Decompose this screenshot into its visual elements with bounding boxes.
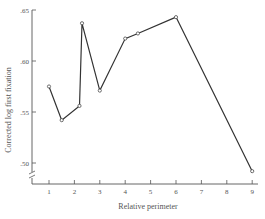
x-tick-label: 9: [250, 188, 254, 196]
y-tick-label: .60: [20, 58, 29, 66]
x-axis: 123456789: [32, 180, 258, 196]
x-tick-label: 3: [98, 188, 102, 196]
x-tick-label: 1: [47, 188, 51, 196]
data-point: [124, 37, 127, 40]
x-tick-label: 7: [200, 188, 204, 196]
axis-break-mark: [29, 175, 35, 178]
y-tick-label: .65: [20, 7, 29, 15]
data-point: [78, 104, 81, 107]
line-chart: .50.55.60.65 123456789 Relative perimete…: [0, 0, 265, 219]
chart-svg: .50.55.60.65 123456789 Relative perimete…: [0, 0, 265, 219]
x-tick-label: 2: [73, 188, 77, 196]
data-point: [136, 32, 139, 35]
data-point: [80, 22, 83, 25]
x-tick-label: 4: [123, 188, 127, 196]
x-tick-label: 8: [225, 188, 229, 196]
x-tick-label: 5: [149, 188, 153, 196]
y-tick-label: .50: [20, 160, 29, 168]
data-point: [60, 119, 63, 122]
data-point: [98, 89, 101, 92]
plot-area: [47, 16, 253, 173]
data-point: [251, 170, 254, 173]
data-point: [174, 16, 177, 19]
y-axis-label: Corrected log first fixation: [4, 67, 13, 153]
x-tick-label: 6: [174, 188, 178, 196]
y-axis: .50.55.60.65: [20, 7, 36, 184]
x-axis-label: Relative perimeter: [118, 202, 178, 211]
data-line: [49, 17, 252, 171]
y-tick-label: .55: [20, 109, 29, 117]
data-point: [47, 85, 50, 88]
